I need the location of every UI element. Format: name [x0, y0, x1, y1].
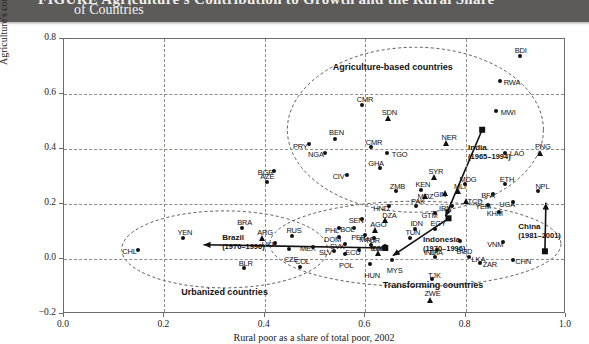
header-title-line2: of Countries — [74, 2, 144, 18]
x-tick-mark — [465, 313, 466, 317]
data-point-label: NGA — [308, 150, 324, 159]
x-tick-mark — [163, 313, 164, 317]
data-point-label: AZE — [260, 172, 274, 181]
data-point-label: BRA — [237, 218, 252, 227]
marker-circle-icon — [287, 247, 291, 251]
data-point-label: GHA — [368, 159, 384, 168]
marker-circle-icon — [518, 54, 522, 58]
y-axis-tick-label: 0.6 — [22, 87, 56, 97]
data-point-label: MWI — [501, 108, 516, 117]
data-point-label: UGA — [499, 200, 515, 209]
x-axis-tick-label: 0.2 — [143, 319, 183, 329]
data-point-label: RWA — [504, 78, 520, 87]
y-axis-label: Agriculture's contribution to growth, 19… — [0, 0, 9, 65]
marker-circle-icon — [498, 79, 502, 83]
data-point-label: PER — [351, 233, 366, 242]
data-point-label: PRY — [293, 142, 308, 151]
data-point-label: PAK — [411, 197, 425, 206]
marker-circle-icon — [368, 262, 372, 266]
x-axis-tick-label: 0.6 — [344, 319, 384, 329]
data-point-label: DZA — [382, 211, 396, 220]
gridline-horizontal — [64, 94, 564, 95]
data-point-label: ZMB — [390, 182, 405, 191]
y-tick-mark — [59, 148, 63, 149]
data-point-label: THA — [428, 248, 442, 257]
data-point-label: BDI — [515, 46, 527, 55]
marker-circle-icon — [478, 261, 482, 265]
trajectory-end-marker-india — [479, 127, 485, 133]
y-axis-tick-label: 0.8 — [22, 32, 56, 42]
x-tick-mark — [565, 313, 566, 317]
data-point-label: IDN — [410, 219, 422, 228]
trajectory-period: (1970–1996) — [222, 242, 265, 251]
x-axis-tick-label: 1.0 — [545, 319, 585, 329]
data-point-label: SYR — [428, 167, 443, 176]
data-point-label: ARG — [257, 228, 273, 237]
plot-area: India(1965–1994)Indonesia(1970–1996)Chin… — [63, 38, 565, 313]
data-point-label: SEN — [349, 216, 364, 225]
marker-circle-icon — [511, 258, 515, 262]
data-point-label: HUN — [364, 271, 380, 280]
marker-circle-icon — [494, 109, 498, 113]
data-point-label: CHN — [515, 257, 531, 266]
marker-circle-icon — [332, 249, 336, 253]
group-label: Transforming countries — [383, 280, 484, 290]
data-point-label: BEN — [329, 128, 344, 137]
data-point-label: AGO — [370, 220, 386, 229]
marker-circle-icon — [503, 151, 507, 155]
trajectory-name: India — [468, 143, 487, 152]
trajectory-period: (1981–2001) — [518, 231, 561, 240]
data-point-label: RUS — [286, 226, 301, 235]
data-point-label: ZAF — [372, 244, 386, 253]
y-axis-tick-label: 0.0 — [22, 252, 56, 262]
data-point-label: CHL — [122, 247, 136, 256]
marker-circle-icon — [345, 173, 349, 177]
data-point-label: ZAR — [483, 260, 497, 269]
y-tick-mark — [59, 313, 63, 314]
data-point-label: EGY — [430, 219, 445, 228]
group-label: Agriculture-based countries — [333, 62, 453, 72]
y-axis-tick-label: 0.4 — [22, 142, 56, 152]
data-point-label: COL — [295, 257, 310, 266]
trajectory-end-marker-china — [542, 248, 548, 254]
plot-overlay — [64, 39, 564, 312]
data-point-label: YEN — [177, 228, 192, 237]
data-point-label: MLI — [454, 182, 466, 191]
plot-inner: India(1965–1994)Indonesia(1970–1996)Chin… — [64, 39, 564, 312]
group-label: Urbanized countries — [181, 287, 268, 297]
data-point-label: SDN — [382, 108, 397, 117]
marker-circle-icon — [458, 239, 462, 243]
data-point-label: TUN — [405, 228, 420, 237]
y-tick-mark — [59, 258, 63, 259]
header-band: FIGURE Agriculture's Contribution to Gro… — [0, 0, 589, 22]
figure-scatter-plot: Agriculture's contribution to growth, 19… — [0, 25, 589, 344]
data-point-label: LAO — [510, 149, 524, 158]
trajectory-label-china: China(1981–2001) — [518, 222, 561, 240]
y-tick-mark — [59, 38, 63, 39]
y-axis-tick-label: −0.2 — [22, 307, 56, 317]
marker-circle-icon — [385, 151, 389, 155]
x-tick-mark — [264, 313, 265, 317]
data-point-label: SLV — [319, 248, 332, 257]
data-point-label: GTM — [421, 211, 437, 220]
marker-circle-icon — [307, 142, 311, 146]
data-point-label: PHL — [325, 226, 339, 235]
trajectory-name: China — [518, 222, 540, 231]
data-point-label: IRN — [439, 204, 451, 213]
data-point-label: NER — [442, 133, 457, 142]
y-tick-mark — [59, 93, 63, 94]
trajectory-name: Indonesia — [423, 235, 460, 244]
y-axis-tick-label: 0.2 — [22, 197, 56, 207]
marker-circle-icon — [390, 258, 394, 262]
trajectory-arrowhead-brazil — [204, 242, 211, 248]
x-axis-tick-label: 0.0 — [43, 319, 83, 329]
data-point-label: KEN — [415, 180, 430, 189]
x-axis-label: Rural poor as a share of total poor, 200… — [63, 332, 565, 343]
data-point-label: TGO — [392, 150, 408, 159]
y-tick-mark — [59, 203, 63, 204]
data-point-label: VNM — [487, 240, 503, 249]
marker-circle-icon — [333, 137, 337, 141]
x-tick-mark — [63, 313, 64, 317]
gridline-vertical — [164, 39, 165, 312]
data-point-label: CIV — [333, 172, 345, 181]
